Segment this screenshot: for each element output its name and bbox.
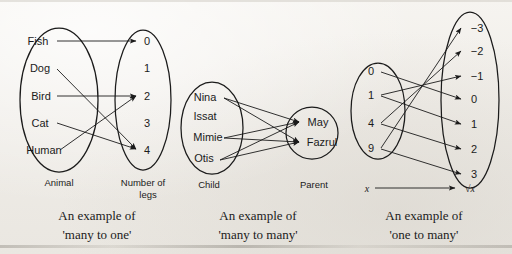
member-sqrt-neg1: −1 bbox=[471, 70, 484, 82]
member-x-0: 0 bbox=[368, 65, 374, 77]
link-cat-to-4 bbox=[57, 123, 136, 149]
member-sqrt-neg2: −2 bbox=[471, 45, 484, 57]
caption-3-line1: An example of bbox=[385, 208, 463, 223]
member-otis: Otis bbox=[194, 152, 214, 164]
link-nina-to-may bbox=[224, 98, 299, 122]
link-otis-to-fazrul bbox=[220, 142, 299, 160]
member-sqrt-3: 3 bbox=[471, 168, 477, 180]
set-label-legs-line2: legs bbox=[139, 189, 157, 200]
member-x-9: 9 bbox=[368, 142, 374, 154]
member-nina: Nina bbox=[194, 91, 218, 103]
caption-1-line1: An example of bbox=[58, 208, 136, 223]
caption-1-line2: 'many to one' bbox=[63, 227, 132, 242]
member-cat: Cat bbox=[31, 117, 48, 129]
diagram-many-to-many: Nina Issat Mimie Otis May Fazrul Child P… bbox=[181, 82, 338, 242]
caption-2-line1: An example of bbox=[219, 208, 297, 223]
link-x1-to-neg1 bbox=[381, 76, 461, 95]
member-legs-2: 2 bbox=[144, 90, 150, 102]
member-sqrt-neg3: −3 bbox=[471, 22, 484, 34]
member-sqrt-0: 0 bbox=[471, 93, 477, 105]
set-label-child: Child bbox=[198, 179, 220, 190]
member-legs-3: 3 bbox=[144, 117, 150, 129]
member-fazrul: Fazrul bbox=[307, 136, 338, 148]
member-human: Human bbox=[26, 144, 61, 156]
member-legs-4: 4 bbox=[144, 144, 150, 156]
set-label-animal: Animal bbox=[44, 177, 73, 188]
member-sqrt-1: 1 bbox=[471, 118, 477, 130]
caption-3-line2: 'one to many' bbox=[390, 227, 459, 242]
member-x-1: 1 bbox=[368, 89, 374, 101]
member-legs-1: 1 bbox=[144, 62, 150, 74]
member-bird: Bird bbox=[31, 90, 51, 102]
member-dog: Dog bbox=[30, 62, 50, 74]
axis-label-x: x bbox=[364, 183, 370, 194]
set-ellipse-parent bbox=[286, 107, 338, 159]
member-legs-0: 0 bbox=[144, 35, 150, 47]
link-x9-to-neg3 bbox=[381, 28, 461, 148]
figure-page: Fish Dog Bird Cat Human 0 1 2 3 4 Animal… bbox=[0, 0, 512, 254]
axis-label-sqrt-x: √x bbox=[465, 183, 475, 194]
member-issat: Issat bbox=[193, 110, 216, 122]
set-label-parent: Parent bbox=[300, 179, 328, 190]
link-x4-to-neg2 bbox=[381, 51, 461, 123]
caption-2-line2: 'many to many' bbox=[218, 227, 297, 242]
member-x-4: 4 bbox=[368, 117, 374, 129]
diagram-many-to-one: Fish Dog Bird Cat Human 0 1 2 3 4 Animal… bbox=[0, 0, 512, 254]
link-x4-to-2 bbox=[381, 124, 461, 149]
set-label-legs-line1: Number of bbox=[121, 177, 166, 188]
link-x1-to-1 bbox=[381, 96, 461, 124]
member-may: May bbox=[308, 116, 329, 128]
diagram-one-to-many: 0 1 4 9 −3 −2 −1 0 1 2 3 x √x An example… bbox=[351, 12, 499, 242]
member-mimie: Mimie bbox=[193, 131, 222, 143]
member-fish: Fish bbox=[28, 35, 49, 47]
member-sqrt-2: 2 bbox=[471, 143, 477, 155]
